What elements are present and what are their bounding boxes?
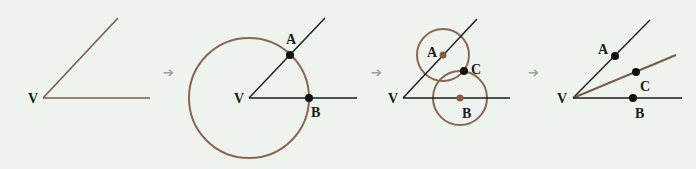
ray-upper (43, 18, 118, 98)
ray-upper (249, 18, 325, 98)
label-c: C (471, 62, 481, 77)
point-b-center (457, 95, 464, 102)
label-c: C (640, 79, 650, 94)
label-b: B (311, 105, 320, 120)
step-4-bisector: V A C B (557, 20, 682, 121)
arrow-right-icon: ➔ (528, 65, 539, 80)
label-b: B (635, 106, 644, 121)
point-c (632, 68, 640, 76)
label-a: A (427, 45, 438, 60)
ray-upper (403, 19, 477, 98)
ray-upper (573, 20, 650, 98)
point-b (305, 94, 313, 102)
label-b: B (462, 106, 471, 121)
arrow-right-icon: ➔ (371, 65, 382, 80)
label-v: V (234, 91, 244, 106)
arrow-right-icon: ➔ (163, 65, 174, 80)
bisector-ray (573, 55, 676, 98)
point-b (629, 94, 637, 102)
diagram-stage: V ➔ V A B ➔ V A C B (0, 0, 696, 169)
point-a-center (440, 52, 447, 59)
construction-diagram: V ➔ V A B ➔ V A C B (0, 0, 696, 169)
label-v: V (557, 91, 567, 106)
point-c (460, 67, 468, 75)
label-a: A (598, 42, 609, 57)
point-a (286, 51, 294, 59)
step-3-arcs-from-a-and-b: V A C B (388, 19, 510, 125)
step-1-angle: V (28, 18, 150, 106)
point-a (611, 52, 619, 60)
label-v: V (388, 91, 398, 106)
label-v: V (28, 91, 38, 106)
step-2-arc-from-vertex: V A B (189, 18, 357, 158)
label-a: A (286, 32, 297, 47)
